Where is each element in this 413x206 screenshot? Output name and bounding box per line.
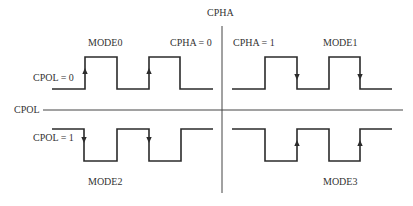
arrow-down-icon bbox=[81, 137, 86, 143]
arrow-up-icon bbox=[294, 140, 299, 146]
arrow-up-icon bbox=[146, 68, 151, 74]
arrow-up-icon bbox=[82, 68, 87, 74]
cpol-0-label: CPOL = 0 bbox=[33, 72, 74, 84]
arrow-down-icon bbox=[357, 74, 362, 80]
arrow-down-icon bbox=[146, 137, 151, 143]
mode3-label: MODE3 bbox=[323, 176, 357, 188]
spi-mode-diagram: CPHA CPOL MODE0 CPHA = 0 CPOL = 0 CPHA =… bbox=[0, 0, 413, 206]
mode0-label: MODE0 bbox=[88, 37, 122, 49]
mode3-waveform bbox=[232, 129, 392, 161]
mode1-label: MODE1 bbox=[323, 37, 357, 49]
mode2-waveform bbox=[52, 129, 213, 161]
cpol-1-label: CPOL = 1 bbox=[33, 132, 74, 144]
mode1-waveform bbox=[232, 57, 392, 89]
arrow-up-icon bbox=[357, 140, 362, 146]
cpha-0-label: CPHA = 0 bbox=[170, 37, 212, 49]
cpha-1-label: CPHA = 1 bbox=[233, 37, 275, 49]
cpha-axis-label: CPHA bbox=[207, 7, 234, 19]
cpol-axis-label: CPOL bbox=[14, 104, 40, 116]
mode2-label: MODE2 bbox=[88, 176, 122, 188]
mode0-waveform bbox=[52, 57, 213, 89]
arrow-down-icon bbox=[294, 74, 299, 80]
